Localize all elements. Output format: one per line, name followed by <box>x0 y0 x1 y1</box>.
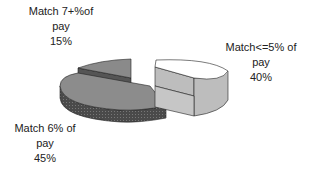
label-percent: 45% <box>10 151 80 166</box>
slice-match-6 <box>60 73 166 122</box>
label-match-6: Match 6% of pay 45% <box>10 121 80 166</box>
slice-match-lte-5 <box>155 60 228 116</box>
label-match-7-plus: Match 7+%of pay 15% <box>28 4 94 49</box>
label-text: Match 6% of <box>10 121 80 136</box>
label-percent: 40% <box>222 70 300 85</box>
label-text: Match 7+%of <box>28 4 94 19</box>
label-text: Match<=5% of <box>222 40 300 55</box>
label-text: pay <box>28 19 94 34</box>
label-match-lte-5: Match<=5% of pay 40% <box>222 40 300 85</box>
label-percent: 15% <box>28 34 94 49</box>
label-text: pay <box>10 136 80 151</box>
pie-chart: Match 7+%of pay 15% Match<=5% of pay 40%… <box>0 0 311 179</box>
label-text: pay <box>222 55 300 70</box>
